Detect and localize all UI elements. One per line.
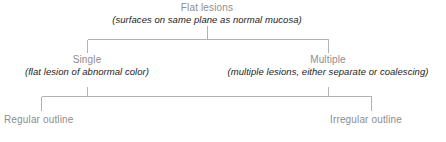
branch-node-multiple: Multiple (multiple lesions, either separ…	[228, 54, 429, 78]
branch-subtitle-multiple: (multiple lesions, either separate or co…	[228, 66, 429, 78]
branch-heading-multiple: Multiple	[228, 54, 429, 66]
root-node: Flat lesions (surfaces on same plane as …	[112, 2, 302, 26]
leaf-node-regular-outline: Regular outline	[4, 114, 74, 126]
branch-subtitle-single: (flat lesion of abnormal color)	[25, 66, 149, 78]
root-heading: Flat lesions	[112, 2, 302, 14]
leaf-label-irregular-outline: Irregular outline	[330, 114, 402, 126]
branch-node-single: Single (flat lesion of abnormal color)	[25, 54, 149, 78]
branches-to-leaves-connector	[42, 87, 372, 111]
flat-lesions-flowchart: Flat lesions (surfaces on same plane as …	[0, 0, 446, 142]
leaf-node-irregular-outline: Irregular outline	[330, 114, 402, 126]
root-subtitle: (surfaces on same plane as normal mucosa…	[112, 14, 302, 26]
leaf-label-regular-outline: Regular outline	[4, 114, 74, 126]
root-to-branches-connector	[88, 26, 329, 53]
branch-heading-single: Single	[25, 54, 149, 66]
